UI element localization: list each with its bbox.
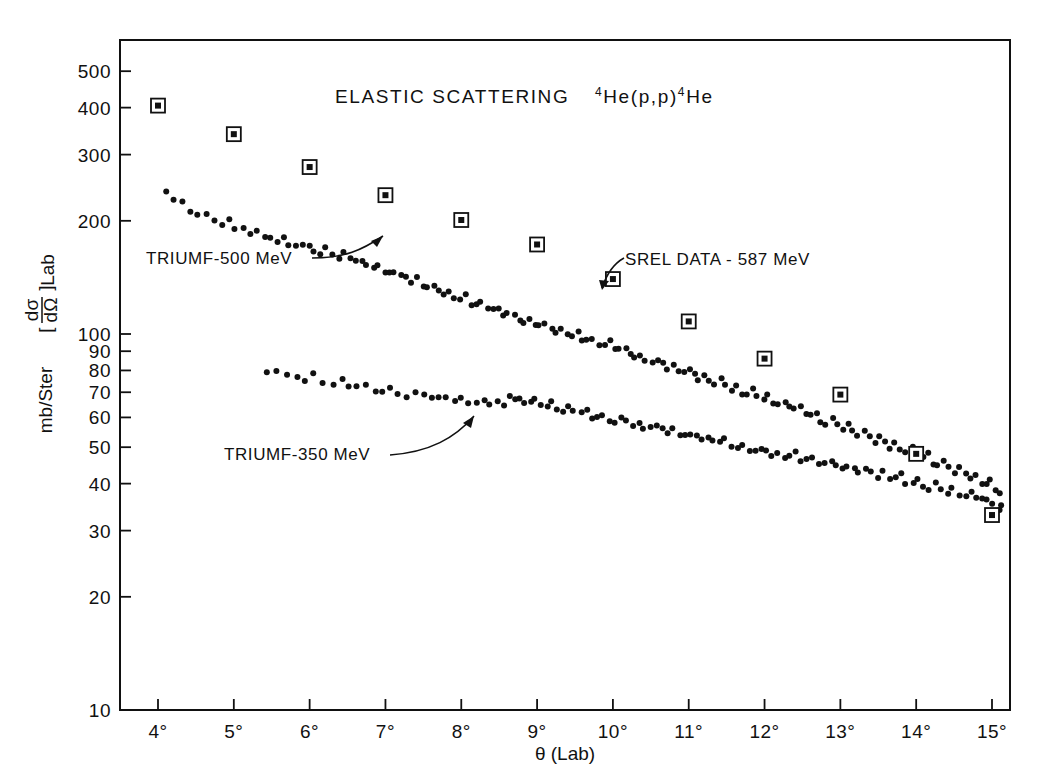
data-point-500	[179, 198, 185, 204]
data-point-350	[429, 395, 435, 401]
data-point-500	[830, 415, 836, 421]
x-axis-label: θ (Lab)	[535, 743, 595, 764]
data-point-350	[989, 501, 995, 507]
data-point-srel-center	[762, 356, 768, 362]
title-reaction: 4He(p,p)4He	[595, 85, 714, 107]
data-point-500	[307, 243, 313, 249]
data-point-500	[390, 269, 396, 275]
data-point-350	[786, 453, 792, 459]
data-point-500	[722, 382, 728, 388]
data-point-350	[443, 394, 449, 400]
data-point-500	[637, 353, 643, 359]
data-point-500	[211, 217, 217, 223]
data-point-500	[285, 242, 291, 248]
data-point-500	[775, 401, 781, 407]
data-point-350	[875, 475, 881, 481]
title-sup-2: 4	[678, 85, 686, 99]
data-point-500	[553, 330, 559, 336]
data-point-350	[353, 383, 359, 389]
data-point-500	[956, 464, 962, 470]
data-point-500	[204, 211, 210, 217]
data-point-500	[934, 462, 940, 468]
y-tick-label: 10	[89, 700, 111, 721]
y-tick-label: 30	[89, 521, 111, 542]
axes-border	[120, 40, 1010, 710]
data-point-500	[973, 472, 979, 478]
data-point-500	[967, 476, 973, 482]
data-point-350	[660, 425, 666, 431]
data-point-500	[596, 342, 602, 348]
x-tick-label: 15°	[977, 721, 1007, 742]
data-point-350	[926, 487, 932, 493]
data-point-500	[267, 235, 273, 241]
data-point-500	[671, 362, 677, 368]
data-point-350	[501, 402, 507, 408]
data-point-500	[526, 316, 532, 322]
data-point-350	[320, 380, 326, 386]
data-point-350	[822, 460, 828, 466]
data-point-500	[862, 428, 868, 434]
data-point-350	[404, 394, 410, 400]
data-point-350	[902, 481, 908, 487]
data-point-500	[891, 439, 897, 445]
data-point-500	[753, 393, 759, 399]
data-point-500	[541, 320, 547, 326]
data-point-500	[602, 342, 608, 348]
y-tick-label: 500	[78, 61, 111, 82]
data-point-350	[809, 455, 815, 461]
data-point-350	[560, 409, 566, 415]
data-point-500	[791, 405, 797, 411]
data-point-500	[576, 328, 582, 334]
data-point-350	[264, 369, 270, 375]
data-point-350	[599, 412, 605, 418]
x-tick-label: 8°	[452, 721, 471, 742]
data-point-500	[485, 306, 491, 312]
data-point-500	[849, 427, 855, 433]
data-point-350	[387, 385, 393, 391]
data-point-500	[676, 368, 682, 374]
data-point-500	[451, 295, 457, 301]
data-point-350	[833, 462, 839, 468]
data-point-500	[424, 284, 430, 290]
data-point-500	[729, 388, 735, 394]
data-point-500	[997, 490, 1003, 496]
data-point-350	[973, 495, 979, 501]
data-point-500	[322, 244, 328, 250]
data-point-500	[952, 470, 958, 476]
data-point-500	[664, 367, 670, 373]
y-axis-units: mb/Ster	[35, 366, 56, 433]
data-point-350	[521, 400, 527, 406]
data-point-500	[719, 375, 725, 381]
title-end: He	[686, 86, 714, 107]
data-point-350	[648, 424, 654, 430]
data-point-500	[281, 234, 287, 240]
data-point-500	[616, 346, 622, 352]
y-axis-denominator: dΩ	[40, 298, 61, 323]
data-point-350	[855, 469, 861, 475]
data-point-350	[803, 456, 809, 462]
data-point-350	[709, 437, 715, 443]
data-point-350	[816, 461, 822, 467]
data-point-500	[946, 464, 952, 470]
data-point-srel-center	[231, 131, 237, 137]
data-point-350	[413, 389, 419, 395]
data-point-350	[938, 486, 944, 492]
data-point-500	[897, 446, 903, 452]
data-point-500	[436, 287, 442, 293]
data-point-500	[750, 385, 756, 391]
data-point-350	[579, 409, 585, 415]
data-point-500	[535, 322, 541, 328]
annot-500-label: TRIUMF-500 MeV	[146, 249, 292, 268]
data-point-350	[868, 469, 874, 475]
data-point-500	[902, 449, 908, 455]
data-point-350	[623, 417, 629, 423]
data-point-350	[421, 391, 427, 397]
data-point-350	[687, 431, 693, 437]
data-point-500	[446, 289, 452, 295]
data-point-srel-center	[837, 392, 843, 398]
data-point-350	[753, 448, 759, 454]
data-point-500	[695, 377, 701, 383]
x-tick-label: 7°	[376, 721, 395, 742]
data-point-500	[403, 274, 409, 280]
data-point-500	[226, 216, 232, 222]
